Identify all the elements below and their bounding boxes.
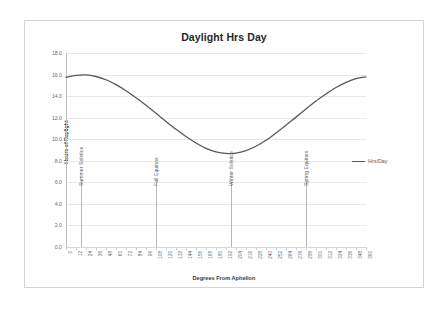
x-axis-tick [296, 247, 297, 250]
x-axis-tick [346, 247, 347, 250]
x-axis-tick [176, 247, 177, 250]
x-axis-tick [276, 247, 277, 250]
y-axis-tick-label: 16.0 [52, 72, 62, 78]
x-axis-tick-label: 228 [258, 251, 263, 259]
x-axis-tick-label: 96 [148, 251, 153, 256]
x-axis-tick [306, 247, 307, 250]
x-axis-tick [366, 247, 367, 250]
x-axis-tick [286, 247, 287, 250]
x-axis-tick-label: 144 [188, 251, 193, 259]
x-axis-tick [326, 247, 327, 250]
y-axis-tick-label: 12.0 [52, 115, 62, 121]
x-axis-tick-label: 252 [278, 251, 283, 259]
x-axis-tick [336, 247, 337, 250]
y-axis-tick-label: 2.0 [55, 222, 62, 228]
x-axis-tick-label: 360 [368, 251, 373, 259]
y-axis-tick-label: 6.0 [55, 179, 62, 185]
x-axis-tick-label: 324 [338, 251, 343, 259]
chart-title: Daylight Hrs Day [25, 31, 423, 43]
x-axis-tick [196, 247, 197, 250]
x-axis-tick [316, 247, 317, 250]
x-axis-tick-label: 156 [198, 251, 203, 259]
x-axis-title: Degrees From Aphelion [25, 275, 423, 281]
x-axis-tick-label: 24 [88, 251, 93, 256]
x-axis-tick-label: 204 [238, 251, 243, 259]
x-axis-tick [206, 247, 207, 250]
x-axis-tick-label: 168 [208, 251, 213, 259]
x-axis-tick [246, 247, 247, 250]
x-axis-tick [66, 247, 67, 250]
x-axis-tick [76, 247, 77, 250]
x-axis-tick [156, 247, 157, 250]
x-axis-tick-label: 36 [98, 251, 103, 256]
x-axis-tick-label: 264 [288, 251, 293, 259]
x-axis-tick-label: 120 [168, 251, 173, 259]
x-axis-tick-label: 84 [138, 251, 143, 256]
chart-container: Daylight Hrs Day Hours of Daylight 0.02.… [24, 20, 424, 288]
x-axis-tick-label: 240 [268, 251, 273, 259]
x-axis-tick-label: 192 [228, 251, 233, 259]
x-axis-tick [116, 247, 117, 250]
x-axis-tick-label: 348 [358, 251, 363, 259]
x-axis-tick-label: 72 [128, 251, 133, 256]
x-axis-tick-label: 0 [68, 251, 73, 254]
x-axis-tick [256, 247, 257, 250]
x-axis-tick-label: 312 [328, 251, 333, 259]
y-axis-tick-label: 8.0 [55, 158, 62, 164]
x-axis-tick-label: 48 [108, 251, 113, 256]
x-axis-tick [216, 247, 217, 250]
x-axis-tick-label: 60 [118, 251, 123, 256]
legend-item-label: Hrs/Day [368, 158, 387, 164]
x-axis-tick-label: 300 [318, 251, 323, 259]
chart-legend: Hrs/Day [352, 158, 387, 164]
x-axis-tick [236, 247, 237, 250]
x-axis-tick [166, 247, 167, 250]
x-axis-tick [226, 247, 227, 250]
series-line-hrs-day [66, 53, 366, 247]
y-axis-tick-label: 14.0 [52, 93, 62, 99]
x-axis-tick-label: 216 [248, 251, 253, 259]
y-axis-tick-label: 4.0 [55, 201, 62, 207]
x-axis-tick-label: 180 [218, 251, 223, 259]
x-axis-tick [96, 247, 97, 250]
x-axis-tick [126, 247, 127, 250]
x-axis-tick [356, 247, 357, 250]
plot-area: 0.02.04.06.08.010.012.014.016.018.0 0122… [66, 53, 366, 247]
x-axis-tick-label: 132 [178, 251, 183, 259]
y-axis-tick-label: 0.0 [55, 244, 62, 250]
x-axis-tick-label: 288 [308, 251, 313, 259]
y-axis-tick-label: 18.0 [52, 50, 62, 56]
x-axis-tick [186, 247, 187, 250]
x-axis-tick [106, 247, 107, 250]
y-axis-tick-label: 10.0 [52, 136, 62, 142]
x-axis-tick-label: 336 [348, 251, 353, 259]
x-axis-tick [136, 247, 137, 250]
x-axis-tick [266, 247, 267, 250]
x-axis-tick-label: 276 [298, 251, 303, 259]
x-axis-tick-label: 108 [158, 251, 163, 259]
x-axis-tick [146, 247, 147, 250]
x-axis-tick-label: 12 [78, 251, 83, 256]
x-axis-tick [86, 247, 87, 250]
legend-line-swatch [352, 161, 365, 162]
